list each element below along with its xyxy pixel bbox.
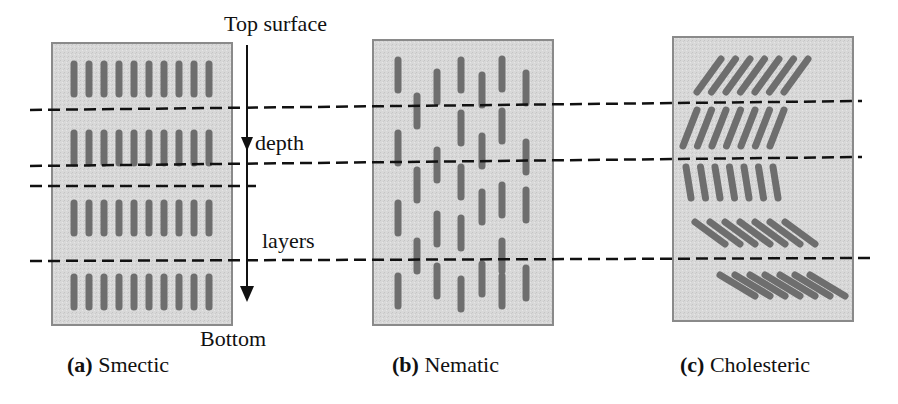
depth-arrow-head-icon <box>240 286 254 302</box>
liquid-crystal-diagram: Top surface depth layers Bottom <box>0 0 898 404</box>
molecule <box>701 167 706 198</box>
caption-smectic-letter: (a) <box>67 352 93 377</box>
label-bottom: Bottom <box>200 326 266 351</box>
molecule <box>730 167 735 198</box>
label-depth: depth <box>255 130 304 155</box>
caption-nematic-letter: (b) <box>392 352 419 377</box>
label-layers: layers <box>262 228 315 253</box>
caption-nematic-name: Nematic <box>424 352 499 377</box>
molecule <box>759 167 764 198</box>
caption-smectic-name: Smectic <box>98 352 169 377</box>
depth-arrow-midhead-icon <box>241 137 253 151</box>
caption-cholesteric-letter: (c) <box>680 352 704 377</box>
molecule <box>773 167 778 198</box>
label-top-surface: Top surface <box>224 11 327 36</box>
molecule <box>715 167 720 198</box>
caption-cholesteric: (c) Cholesteric <box>680 352 810 378</box>
panel-smectic <box>52 43 232 325</box>
caption-smectic: (a) Smectic <box>67 352 169 378</box>
caption-nematic: (b) Nematic <box>392 352 499 378</box>
molecule <box>744 167 749 198</box>
caption-cholesteric-name: Cholesteric <box>710 352 810 377</box>
molecule <box>686 167 691 198</box>
